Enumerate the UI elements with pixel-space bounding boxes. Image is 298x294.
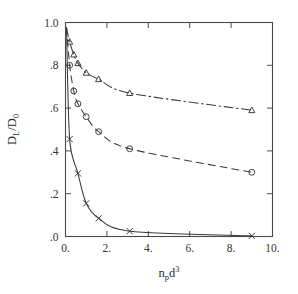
figure-container: 0.2.4.6.8.10.1.0.8.6.4.2.0npd3DL/D0 [0,0,298,294]
x-tick-label: 2. [103,242,112,254]
x-axis-title: npd3 [159,264,180,282]
y-tick-label: .0 [50,231,59,243]
y-tick-label: .6 [50,102,59,114]
series-line-upper [67,28,252,110]
diffusion-plot: 0.2.4.6.8.10.1.0.8.6.4.2.0npd3DL/D0 [0,0,298,294]
series-line-lower [67,28,252,236]
data-marker-upper [71,51,77,57]
x-tick-label: 10. [265,242,280,254]
y-tick-label: .4 [50,145,59,157]
x-tick-label: 0. [61,242,70,254]
y-tick-label: 1.0 [44,17,59,29]
x-tick-label: 4. [144,242,153,254]
series-line-middle [67,28,252,172]
y-tick-label: .8 [50,59,59,71]
x-tick-label: 6. [185,242,194,254]
data-marker-upper [96,76,102,82]
x-tick-label: 8. [227,242,236,254]
y-axis-title: DL/D0 [5,114,21,145]
data-marker-middle [83,114,89,120]
y-tick-label: .2 [50,188,59,200]
